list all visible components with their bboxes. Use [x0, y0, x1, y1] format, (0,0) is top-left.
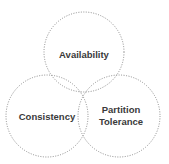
cap-venn-diagram: Availability Consistency Partition Toler…	[0, 0, 169, 164]
availability-label: Availability	[59, 49, 110, 60]
consistency-label: Consistency	[19, 111, 76, 122]
partition-label-line2: Tolerance	[99, 116, 143, 127]
partition-label-line1: Partition	[102, 104, 141, 115]
